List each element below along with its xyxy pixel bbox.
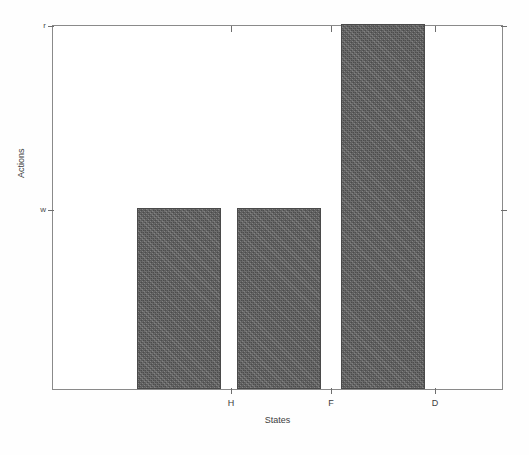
bar-h[interactable]	[137, 208, 221, 389]
y-tick-mark-w-right	[501, 210, 507, 211]
x-tick-mark-f-top	[331, 26, 332, 32]
y-tick-mark-w	[48, 210, 54, 211]
y-tick-label-w: w	[40, 206, 46, 214]
x-tick-label-h: H	[228, 399, 235, 408]
y-axis-title: Actions	[16, 148, 26, 178]
x-tick-mark-h	[231, 388, 232, 394]
x-tick-label-f: F	[328, 399, 334, 408]
x-tick-mark-h-top	[231, 26, 232, 32]
x-axis-title: States	[52, 415, 503, 425]
plot-area: r w H F D	[52, 25, 503, 390]
x-tick-mark-f	[331, 388, 332, 394]
bar-chart-figure: r w H F D States Actions	[0, 0, 529, 455]
x-tick-label-d: D	[432, 399, 439, 408]
x-tick-mark-d-top	[435, 26, 436, 32]
y-tick-mark-r	[48, 26, 54, 27]
x-tick-mark-d	[435, 388, 436, 394]
y-tick-label-r: r	[43, 22, 46, 30]
y-tick-mark-r-right	[501, 26, 507, 27]
bar-d[interactable]	[341, 24, 425, 389]
bar-f[interactable]	[237, 208, 321, 389]
